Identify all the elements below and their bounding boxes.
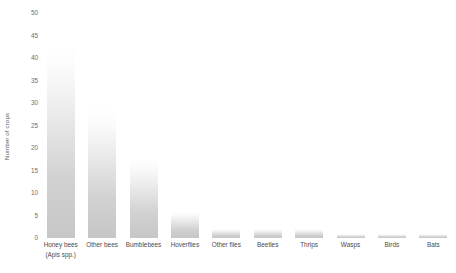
x-axis-tick-label: Hoverflies	[164, 240, 205, 250]
x-axis-tick-label-main: Honey bees	[44, 241, 78, 248]
x-axis-tick-label-main: Bats	[427, 241, 440, 248]
bar-slot	[212, 13, 240, 238]
x-axis-tick-label: Wasps	[330, 240, 371, 250]
y-axis-title: Number of crops	[0, 0, 14, 273]
bar	[419, 234, 447, 239]
y-axis-tick-label: 25	[14, 122, 38, 128]
x-axis-tick-label: Thrips	[288, 240, 329, 250]
y-axis-ticks: 05101520253035404550	[14, 0, 38, 273]
bar-slot	[130, 13, 158, 238]
x-axis-tick-label-main: Birds	[385, 241, 400, 248]
y-axis-title-text: Number of crops	[4, 113, 11, 160]
y-axis-tick-label: 15	[14, 167, 38, 173]
y-axis-tick-label: 10	[14, 190, 38, 196]
x-axis-tick-label-main: Beetles	[257, 241, 278, 248]
bar	[47, 45, 75, 239]
bar	[254, 229, 282, 238]
y-axis-tick-label: 45	[14, 32, 38, 38]
bar-chart: Number of crops 05101520253035404550 Hon…	[0, 0, 456, 273]
y-axis-tick-label: 5	[14, 212, 38, 218]
x-axis-tick-label: Birds	[371, 240, 412, 250]
x-axis-tick-label: Honey bees(Apis spp.)	[40, 240, 81, 259]
x-axis-tick-label-sub: (Apis spp.)	[40, 250, 81, 260]
plot-area	[40, 13, 454, 238]
y-axis-tick-label: 20	[14, 145, 38, 151]
bar	[378, 234, 406, 239]
bar-slot	[254, 13, 282, 238]
x-axis-tick-label: Bats	[413, 240, 454, 250]
bar	[295, 229, 323, 238]
bar-slot	[378, 13, 406, 238]
x-axis-tick-label-main: Other bees	[86, 241, 118, 248]
x-axis-tick-label: Bumblebees	[123, 240, 164, 250]
bar	[88, 108, 116, 239]
bar-slot	[171, 13, 199, 238]
y-axis-tick-label: 30	[14, 100, 38, 106]
bar-slot	[88, 13, 116, 238]
bar	[171, 211, 199, 238]
bar-slot	[47, 13, 75, 238]
x-axis-tick-label-main: Thrips	[300, 241, 318, 248]
bar-slot	[419, 13, 447, 238]
bar	[337, 234, 365, 239]
y-axis-tick-label: 40	[14, 55, 38, 61]
y-axis-tick-label: 50	[14, 10, 38, 16]
bar	[130, 157, 158, 238]
x-axis-tick-label-main: Bumblebees	[126, 241, 162, 248]
y-axis-tick-label: 0	[14, 235, 38, 241]
bar-slot	[295, 13, 323, 238]
y-axis-tick-label: 35	[14, 77, 38, 83]
bar-slot	[337, 13, 365, 238]
x-axis-tick-label-main: Wasps	[341, 241, 360, 248]
x-axis-tick-label: Beetles	[247, 240, 288, 250]
bar	[212, 229, 240, 238]
x-axis-tick-label-main: Hoverflies	[171, 241, 199, 248]
x-axis-labels: Honey bees(Apis spp.)Other beesBumblebee…	[40, 240, 454, 273]
x-axis-tick-label: Other flies	[206, 240, 247, 250]
x-axis-tick-label-main: Other flies	[212, 241, 241, 248]
x-axis-tick-label: Other bees	[81, 240, 122, 250]
